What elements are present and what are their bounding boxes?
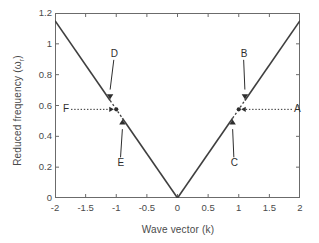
curve-segment (55, 21, 110, 101)
marker-e-arrow-shaft (121, 129, 123, 157)
curve-segment (245, 21, 300, 101)
x-tick-label: -1.5 (71, 203, 101, 213)
x-tick-label: -2 (40, 203, 70, 213)
x-tick-label: -1 (101, 203, 131, 213)
marker-c-arrow-shaft (233, 129, 234, 157)
curve-segment (178, 118, 233, 198)
marker-b-arrow-shaft (244, 60, 245, 90)
marker-d-arrow-shaft (110, 60, 114, 90)
x-tick-label: 1.5 (254, 203, 284, 213)
x-tick-label: 0 (163, 203, 193, 213)
dispersion-plot (55, 13, 300, 198)
curve-segment (122, 118, 177, 198)
figure-container: Reduced frequency (ωr) Wave vector (k) 0… (0, 0, 319, 243)
x-tick-label: 0.5 (193, 203, 223, 213)
marker-f-arrow-head (109, 107, 114, 112)
x-tick-label: 1 (224, 203, 254, 213)
x-tick-label: -0.5 (132, 203, 162, 213)
marker-a-arrow-head (241, 107, 246, 112)
x-tick-label: 2 (285, 203, 315, 213)
marker-a-dot (237, 107, 241, 111)
marker-f-dot (114, 107, 118, 111)
